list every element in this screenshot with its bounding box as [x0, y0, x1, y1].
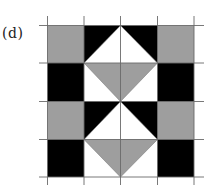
cell-r1-c3-black	[158, 63, 195, 102]
cell-r0-c0-gray	[48, 26, 85, 64]
cell-r3-c3-black	[158, 140, 195, 178]
cell-r1-c0-black	[48, 63, 85, 102]
cell-r3-c0-black	[48, 140, 85, 178]
quilt-pattern-diagram	[0, 0, 214, 193]
cell-r2-c0-gray	[48, 102, 85, 140]
cell-r2-c3-gray	[158, 102, 195, 140]
cell-r0-c3-gray	[158, 26, 195, 64]
